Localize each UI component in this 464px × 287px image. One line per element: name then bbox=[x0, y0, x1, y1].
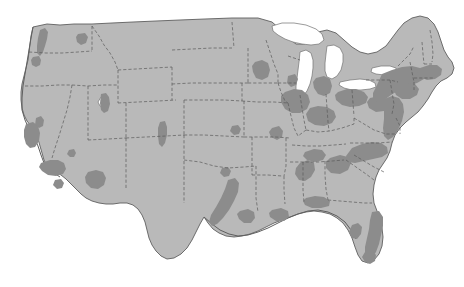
region-los-angeles-basin bbox=[39, 160, 66, 176]
us-thematic-map-figure bbox=[0, 0, 464, 287]
us-map-canvas bbox=[0, 0, 464, 287]
contiguous-us-landmass bbox=[21, 16, 454, 263]
landmass-group bbox=[21, 16, 454, 263]
region-san-diego bbox=[53, 179, 64, 189]
